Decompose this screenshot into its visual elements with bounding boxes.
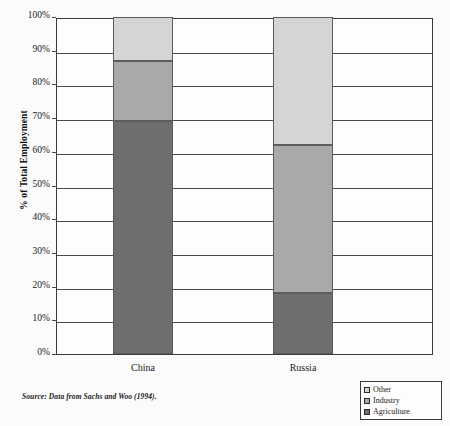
y-tick-label: 70% [33,111,50,122]
y-tick-label: 90% [33,44,50,55]
legend-item-industry[interactable]: Industry [364,395,438,406]
x-label-russia: Russia [243,362,363,373]
legend-label-other: Other [373,384,391,395]
y-tick-label: 100% [28,10,50,21]
y-tick-label: 40% [33,212,50,223]
y-tick-label: 80% [33,77,50,88]
y-tick-label: 0% [37,347,50,358]
y-tick-label: 30% [33,246,50,257]
bar-segment-china-industry[interactable] [113,61,173,122]
legend-label-agriculture: Agriculture [373,406,410,417]
legend-swatch-agriculture-icon [364,409,370,415]
y-axis: 100% 90% 80% 70% 60% 50% 40% 30% [0,0,56,373]
bar-segment-china-agriculture[interactable] [113,121,173,354]
source-note: Source: Data from Sachs and Woo (1994). [22,392,157,401]
y-tick-label: 10% [33,313,50,324]
legend-label-industry: Industry [373,395,400,406]
legend-swatch-industry-icon [364,398,370,404]
legend-swatch-other-icon [364,387,370,393]
legend-item-other[interactable]: Other [364,384,438,395]
bar-segment-china-other[interactable] [113,17,173,61]
legend[interactable]: Other Industry Agriculture [360,381,442,420]
plot-area [56,18,433,355]
x-label-china: China [83,362,203,373]
legend-item-agriculture[interactable]: Agriculture [364,406,438,417]
bar-segment-russia-agriculture[interactable] [273,293,333,354]
bar-segment-russia-industry[interactable] [273,145,333,293]
y-tick-label: 60% [33,145,50,156]
stacked-bar-chart-figure: % of Total Employment 100% 90% 80% 70% 6… [0,0,450,426]
y-tick-label: 50% [33,179,50,190]
bar-segment-russia-other[interactable] [273,17,333,145]
y-tick-label: 20% [33,280,50,291]
